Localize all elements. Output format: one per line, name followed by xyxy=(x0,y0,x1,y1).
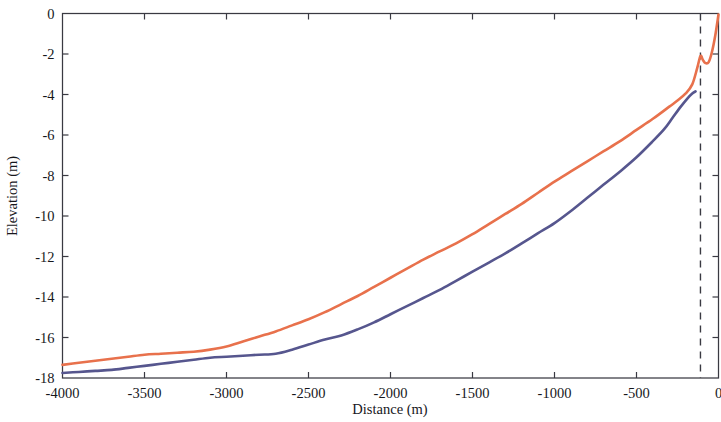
x-tick-label: -3000 xyxy=(210,385,244,401)
x-tick-label: -1000 xyxy=(538,385,572,401)
chart-svg: -4000-3500-3000-2500-2000-1500-1000-5000… xyxy=(0,0,721,422)
y-tick-label: -10 xyxy=(35,208,54,224)
x-tick-label: -4000 xyxy=(46,385,80,401)
x-axis-title: Distance (m) xyxy=(352,401,427,418)
y-tick-label: -2 xyxy=(42,46,54,62)
y-tick-label: -6 xyxy=(42,127,54,143)
y-tick-label: -12 xyxy=(35,249,54,265)
elevation-profile-chart: -4000-3500-3000-2500-2000-1500-1000-5000… xyxy=(0,0,721,422)
y-tick-label: -16 xyxy=(35,330,54,346)
y-tick-label: -4 xyxy=(42,87,55,103)
y-tick-label: -14 xyxy=(35,289,55,305)
y-tick-label: -18 xyxy=(35,370,54,386)
x-tick-label: -500 xyxy=(623,385,650,401)
x-tick-label: -2000 xyxy=(374,385,408,401)
y-tick-label: -8 xyxy=(42,168,54,184)
y-axis-title: Elevation (m) xyxy=(4,156,21,236)
x-tick-label: -1500 xyxy=(456,385,490,401)
x-tick-label: -2500 xyxy=(292,385,326,401)
y-tick-label: 0 xyxy=(47,6,54,22)
x-tick-label: -3500 xyxy=(128,385,162,401)
x-tick-label: 0 xyxy=(715,385,721,401)
